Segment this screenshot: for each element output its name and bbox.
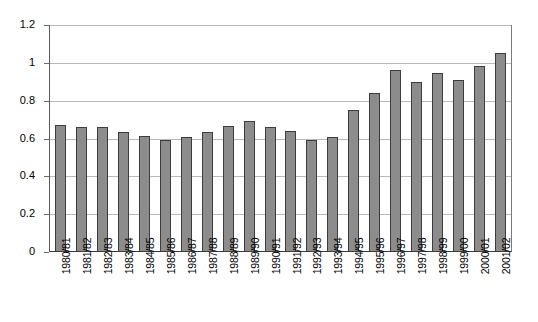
x-axis-tick-label: 1981/82 — [82, 238, 93, 275]
x-axis-tick: 1984/85 — [134, 254, 155, 322]
x-axis-tick-label: 2000/01 — [480, 238, 491, 275]
x-axis-tick: 1991/92 — [281, 254, 302, 322]
x-axis-tick: 1993/94 — [322, 254, 343, 322]
x-axis-tick: 1986/87 — [176, 254, 197, 322]
bar — [348, 110, 359, 252]
x-axis-tick: 1981/82 — [71, 254, 92, 322]
x-axis-tick: 1992/93 — [301, 254, 322, 322]
bar — [139, 136, 150, 252]
bar — [411, 82, 422, 252]
bar — [390, 70, 401, 252]
x-axis-tick-label: 1988/89 — [229, 238, 240, 275]
y-axis-tick-label: 0.2 — [20, 208, 35, 219]
bar-chart: 00.20.40.60.811.2 1980/811981/821982/831… — [0, 0, 538, 322]
x-axis-tick: 1995/96 — [364, 254, 385, 322]
bar — [118, 132, 129, 252]
bar — [432, 73, 443, 252]
bar — [202, 132, 213, 252]
x-axis-tick: 1994/95 — [343, 254, 364, 322]
x-axis-tick-label: 2001/02 — [501, 238, 512, 275]
bar — [181, 137, 192, 252]
x-axis-tick-label: 1993/94 — [333, 238, 344, 275]
x-axis-tick-label: 1994/95 — [354, 238, 365, 275]
y-axis-tick-label: 1 — [29, 57, 35, 68]
y-axis: 00.20.40.60.811.2 — [0, 0, 44, 322]
x-axis-tick-label: 1989/90 — [250, 238, 261, 275]
bar — [306, 140, 317, 252]
x-axis-tick: 1989/90 — [239, 254, 260, 322]
x-axis: 1980/811981/821982/831983/841984/851985/… — [50, 254, 511, 322]
bar — [160, 140, 171, 252]
x-axis-tick: 1982/83 — [92, 254, 113, 322]
x-axis-tick: 1983/84 — [113, 254, 134, 322]
x-axis-tick: 1998/99 — [427, 254, 448, 322]
x-axis-tick: 1985/86 — [155, 254, 176, 322]
x-axis-tick: 2001/02 — [490, 254, 511, 322]
bars-layer — [50, 26, 511, 252]
x-axis-tick: 1996/97 — [385, 254, 406, 322]
x-axis-tick-label: 1999/00 — [459, 238, 470, 275]
bar — [495, 53, 506, 252]
bar — [285, 131, 296, 252]
x-axis-tick-label: 1982/83 — [103, 238, 114, 275]
x-axis-tick-label: 1987/88 — [208, 238, 219, 275]
y-axis-tick-label: 1.2 — [20, 19, 35, 30]
x-axis-tick-label: 1997/98 — [417, 238, 428, 275]
bar — [474, 66, 485, 252]
bar — [223, 126, 234, 252]
bar — [244, 121, 255, 252]
x-axis-tick: 1987/88 — [197, 254, 218, 322]
bar — [97, 127, 108, 252]
bar — [76, 127, 87, 252]
x-axis-tick-label: 1985/86 — [166, 238, 177, 275]
x-axis-tick-label: 1984/85 — [145, 238, 156, 275]
y-axis-tick-label: 0.6 — [20, 133, 35, 144]
x-axis-tick: 1997/98 — [406, 254, 427, 322]
x-axis-tick: 1980/81 — [50, 254, 71, 322]
bar — [55, 125, 66, 252]
bar — [369, 93, 380, 252]
bar — [453, 80, 464, 252]
x-axis-tick-label: 1983/84 — [124, 238, 135, 275]
y-axis-tick-mark — [44, 252, 49, 253]
x-axis-tick-label: 1992/93 — [312, 238, 323, 275]
x-axis-tick-label: 1995/96 — [375, 238, 386, 275]
bar — [265, 127, 276, 252]
y-axis-tick-label: 0.4 — [20, 170, 35, 181]
x-axis-tick-label: 1998/99 — [438, 238, 449, 275]
y-axis-tick-label: 0 — [29, 246, 35, 257]
bar — [327, 137, 338, 252]
x-axis-tick-label: 1980/81 — [61, 238, 72, 275]
x-axis-tick: 2000/01 — [469, 254, 490, 322]
y-axis-tick-label: 0.8 — [20, 95, 35, 106]
x-axis-tick: 1999/00 — [448, 254, 469, 322]
x-axis-tick: 1988/89 — [218, 254, 239, 322]
x-axis-tick-label: 1990/91 — [271, 238, 282, 275]
x-axis-tick-label: 1986/87 — [187, 238, 198, 275]
x-axis-tick: 1990/91 — [260, 254, 281, 322]
x-axis-tick-label: 1996/97 — [396, 238, 407, 275]
